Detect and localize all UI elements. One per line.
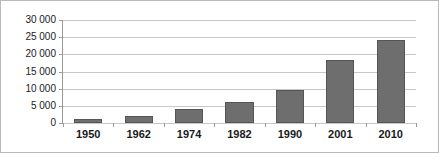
bar-2001[interactable] xyxy=(326,60,354,123)
x-axis-tick-label: 2001 xyxy=(315,129,365,140)
x-axis-tick-label: 1990 xyxy=(265,129,315,140)
x-axis-tick-label: 1962 xyxy=(113,129,163,140)
bar-1982[interactable] xyxy=(225,102,253,123)
y-axis-tick-label: 5 000 xyxy=(31,101,56,111)
x-tick-mark xyxy=(164,123,165,127)
y-axis-tick-label: 10 000 xyxy=(25,84,56,94)
y-axis-tick-label: 20 000 xyxy=(25,49,56,59)
bar-slot xyxy=(113,20,163,123)
x-tick-mark xyxy=(315,123,316,127)
y-axis-tick-label: 0 xyxy=(50,118,56,128)
y-axis-tick-label: 15 000 xyxy=(25,67,56,77)
bar-slot xyxy=(164,20,214,123)
x-tick-mark xyxy=(214,123,215,127)
x-tick-mark xyxy=(366,123,367,127)
x-tick-mark xyxy=(416,123,417,127)
bar-1974[interactable] xyxy=(175,109,203,123)
bar-slot xyxy=(315,20,365,123)
y-axis-labels: 05 00010 00015 00020 00025 00030 000 xyxy=(1,1,56,153)
bar-slot xyxy=(265,20,315,123)
bar-1950[interactable] xyxy=(74,119,102,123)
x-axis-tick-label: 1950 xyxy=(63,129,113,140)
bar-2010[interactable] xyxy=(377,40,405,123)
x-tick-mark xyxy=(113,123,114,127)
bar-series xyxy=(63,20,416,123)
bar-1962[interactable] xyxy=(125,116,153,123)
bar-slot xyxy=(63,20,113,123)
plot-area xyxy=(63,20,416,123)
bar-1990[interactable] xyxy=(276,90,304,123)
x-axis-tick-label: 1982 xyxy=(214,129,264,140)
y-axis-tick-label: 30 000 xyxy=(25,15,56,25)
bar-slot xyxy=(214,20,264,123)
y-axis-tick-label: 25 000 xyxy=(25,32,56,42)
bar-chart: 05 00010 00015 00020 00025 00030 000 195… xyxy=(0,0,439,153)
gridline xyxy=(63,123,416,124)
x-axis-labels: 1950196219741982199020012010 xyxy=(63,129,416,140)
x-tick-mark xyxy=(265,123,266,127)
x-tick-mark xyxy=(63,123,64,127)
x-axis-tick-label: 2010 xyxy=(366,129,416,140)
x-axis-tick-label: 1974 xyxy=(164,129,214,140)
bar-slot xyxy=(366,20,416,123)
